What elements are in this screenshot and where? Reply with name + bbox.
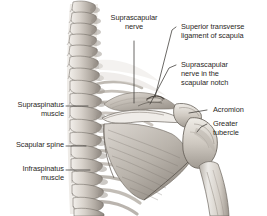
- label-superior-transverse-ligament: Superior transverse ligament of scapula: [181, 23, 267, 41]
- label-greater-tubercle: Greater tubercle: [213, 120, 265, 138]
- label-scapular-spine: Scapular spine: [2, 141, 64, 150]
- label-suprascapular-nerve: Suprascapular nerve: [96, 14, 172, 32]
- label-acromion: Acromion: [213, 106, 267, 115]
- label-supraspinatus-muscle: Supraspinatus muscle: [2, 101, 64, 119]
- anatomy-figure: Suprascapular nerve Superior transverse …: [0, 0, 267, 216]
- label-nerve-in-notch: Suprascapular nerve in the scapular notc…: [181, 61, 265, 87]
- label-infraspinatus-muscle: Infraspinatus muscle: [2, 165, 64, 183]
